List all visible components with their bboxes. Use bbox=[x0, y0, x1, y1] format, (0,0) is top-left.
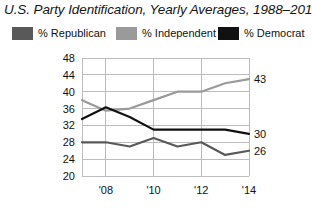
y-axis-tick-label: 40 bbox=[63, 86, 75, 98]
series-end-label: 30 bbox=[254, 128, 266, 140]
grid-lines bbox=[82, 58, 249, 176]
y-axis-tick-label: 28 bbox=[63, 136, 75, 148]
legend-swatch-republican bbox=[12, 27, 33, 40]
legend-item-republican: % Republican bbox=[12, 26, 106, 41]
y-axis-tick-label: 36 bbox=[63, 103, 75, 115]
series-line bbox=[82, 79, 249, 111]
series-end-label: 26 bbox=[254, 145, 266, 157]
legend-label-independent: % Independent bbox=[142, 27, 216, 40]
legend-swatch-democrat bbox=[218, 27, 239, 40]
x-axis-tick-labels: '08'10'12'14 bbox=[99, 184, 256, 196]
y-axis-tick-labels: 2024283236404448 bbox=[63, 52, 75, 182]
series-end-label: 43 bbox=[254, 73, 266, 85]
series-line bbox=[82, 138, 249, 155]
line-chart-svg: 2024283236404448 '08'10'12'14 264330 bbox=[0, 45, 312, 209]
y-axis-tick-label: 44 bbox=[63, 69, 75, 81]
legend-item-democrat: % Democrat bbox=[218, 26, 305, 41]
x-axis-tick-label: '14 bbox=[242, 184, 256, 196]
y-axis-tick-label: 32 bbox=[63, 119, 75, 131]
plot-area: 2024283236404448 '08'10'12'14 264330 bbox=[0, 45, 312, 209]
x-axis-tick-label: '10 bbox=[146, 184, 160, 196]
data-series-lines bbox=[82, 79, 249, 155]
chart-title: U.S. Party Identification, Yearly Averag… bbox=[4, 2, 310, 17]
chart-figure: U.S. Party Identification, Yearly Averag… bbox=[0, 0, 312, 209]
y-axis-tick-label: 20 bbox=[63, 170, 75, 182]
legend-item-independent: % Independent bbox=[116, 26, 216, 41]
y-axis-tick-label: 48 bbox=[63, 52, 75, 64]
legend-label-republican: % Republican bbox=[38, 27, 106, 40]
chart-legend: % Republican % Independent % Democrat bbox=[12, 26, 304, 41]
legend-swatch-independent bbox=[116, 27, 137, 40]
series-end-labels: 264330 bbox=[254, 73, 266, 157]
x-axis-tick-label: '08 bbox=[99, 184, 113, 196]
x-axis-tick-label: '12 bbox=[194, 184, 208, 196]
legend-label-democrat: % Democrat bbox=[244, 27, 305, 40]
y-axis-tick-label: 24 bbox=[63, 153, 75, 165]
